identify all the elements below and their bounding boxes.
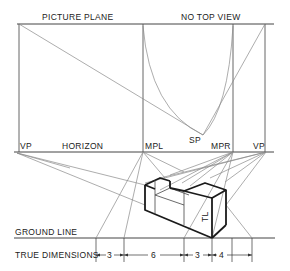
true-dimensions-scale <box>96 238 252 262</box>
vp-left-ray-3 <box>17 153 70 168</box>
mpl-ray-4 <box>143 152 165 178</box>
measuring-arc-right <box>203 26 233 135</box>
sp-label: SP <box>189 135 201 145</box>
dimension-4: 4 <box>219 250 224 260</box>
dimension-6: 6 <box>151 250 156 260</box>
true-length-label: TL <box>200 211 210 222</box>
vp-right-label: VP <box>253 141 265 151</box>
ground-line-label: GROUND LINE <box>15 227 77 237</box>
dimension-3a: 3 <box>107 250 112 260</box>
vp-right-ray-1 <box>210 152 266 178</box>
sight-line-right <box>203 24 265 135</box>
horizon-label: HORIZON <box>62 141 103 151</box>
mpl-ray-1 <box>96 152 143 238</box>
sight-line-left <box>19 24 203 135</box>
vp-left-label: VP <box>20 141 32 151</box>
mpr-label: MPR <box>211 141 231 151</box>
dimension-3b: 3 <box>195 250 200 260</box>
true-dimensions-label: TRUE DIMENSIONS <box>15 250 99 260</box>
right-ground-ray <box>226 205 252 238</box>
vp-right-ray-3 <box>226 152 266 205</box>
vp-right-ray-2 <box>225 152 266 182</box>
mpl-ray-3 <box>143 152 184 172</box>
perspective-diagram: TL 3 6 3 4 PICTURE PLANE NO TOP VIEW VP … <box>0 0 290 271</box>
no-top-view-label: NO TOP VIEW <box>181 12 241 22</box>
mpl-ray-2 <box>124 152 143 238</box>
vp-left-ray-2 <box>17 153 145 205</box>
measuring-arc-left <box>143 26 203 135</box>
mpl-label: MPL <box>145 141 163 151</box>
picture-plane-label: PICTURE PLANE <box>42 12 113 22</box>
vp-left-ray-1 <box>17 153 145 185</box>
